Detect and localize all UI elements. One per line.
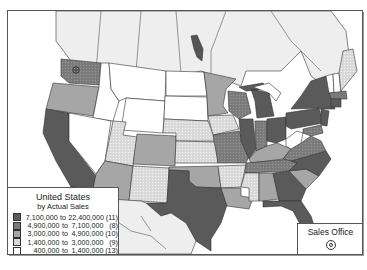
legend-swatch [13,222,21,230]
sales-office-label: Sales Office [298,227,363,237]
legend-subtitle: by Actual Sales [8,202,118,211]
sales-office-legend: Sales Office [297,223,363,255]
state-wy [121,98,165,133]
legend-item: 400,000 to 1,400,000 (13) [8,247,118,255]
state-ks [175,141,218,163]
legend-swatch [13,230,21,238]
legend: United States by Actual Sales 7,100,000 … [8,187,119,255]
state-nd [166,71,207,96]
state-ct [331,99,341,107]
map-frame: United States by Actual Sales 7,100,000 … [7,10,363,255]
legend-swatch [13,238,21,246]
state-nm [129,166,169,203]
state-co [133,134,176,166]
state-sd [164,96,208,121]
state-oh [267,117,286,143]
state-wa [61,59,101,85]
state-nj [321,109,329,126]
bullseye-icon [326,240,336,250]
legend-low: 400,000 [23,246,60,255]
legend-high: 1,400,000 [71,246,104,255]
legend-title: United States [8,192,118,202]
legend-swatch [13,247,21,255]
legend-swatch [13,213,21,221]
legend-count: (13) [103,246,118,255]
state-md [303,125,323,136]
legend-to: to [60,246,71,255]
